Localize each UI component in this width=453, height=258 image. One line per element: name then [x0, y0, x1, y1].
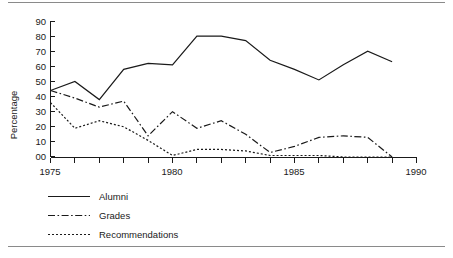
y-tick-label: 20 — [35, 121, 46, 132]
y-tick-labels: 90 80 70 60 50 40 30 20 10 00 — [35, 16, 46, 162]
x-tick-marks — [51, 158, 417, 163]
x-tick-label: 1980 — [161, 166, 182, 177]
legend-label-grades: Grades — [99, 210, 130, 221]
chart-legend: Alumni Grades Recommendations — [48, 191, 178, 240]
y-tick-label: 60 — [35, 61, 46, 72]
legend-label-alumni: Alumni — [99, 191, 128, 202]
y-tick-label: 80 — [35, 31, 46, 42]
series-line-grades — [51, 91, 393, 157]
series-line-recommendations — [51, 103, 393, 157]
y-tick-label: 50 — [35, 76, 46, 87]
figure-container: Percentage 90 80 70 60 50 40 30 20 10 00 — [0, 0, 453, 258]
x-tick-label: 1985 — [283, 166, 304, 177]
y-tick-label: 00 — [35, 151, 46, 162]
y-tick-label: 70 — [35, 46, 46, 57]
y-tick-label: 10 — [35, 136, 46, 147]
y-axis-title: Percentage — [8, 91, 19, 140]
y-tick-label: 40 — [35, 91, 46, 102]
y-tick-label: 90 — [35, 16, 46, 27]
x-tick-label: 1975 — [39, 166, 60, 177]
legend-label-recommendations: Recommendations — [99, 229, 178, 240]
y-tick-label: 30 — [35, 106, 46, 117]
x-tick-labels: 1975 1980 1985 1990 — [39, 166, 426, 177]
x-tick-label: 1990 — [405, 166, 426, 177]
series-group — [51, 36, 393, 157]
series-line-alumni — [51, 36, 393, 99]
line-chart: Percentage 90 80 70 60 50 40 30 20 10 00 — [0, 0, 453, 258]
